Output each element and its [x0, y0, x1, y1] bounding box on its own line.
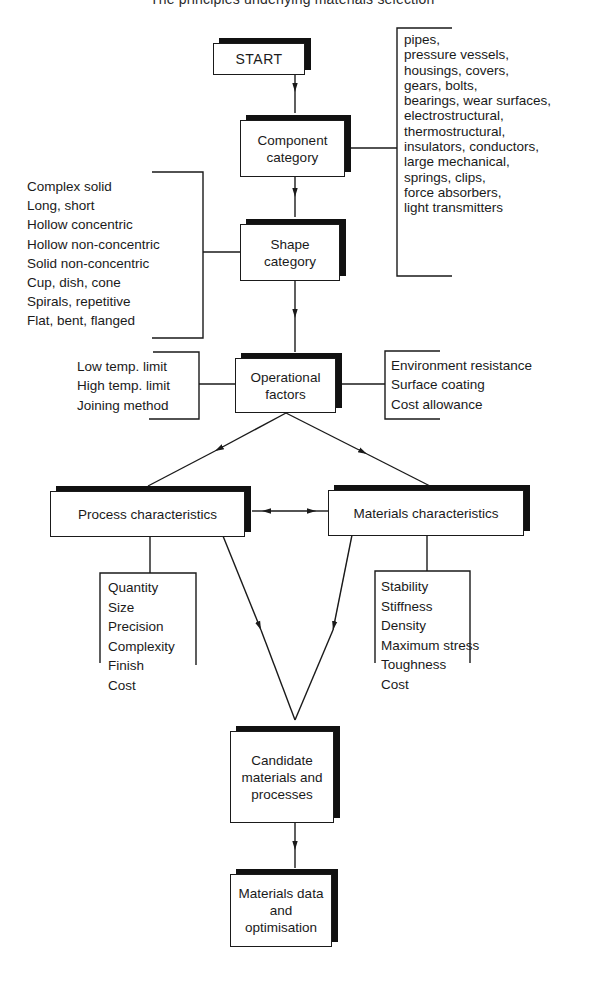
- list-item: Complex solid: [27, 177, 160, 196]
- list-item: Precision: [108, 617, 175, 637]
- list-item: electrostructural,: [404, 108, 551, 123]
- list-item: large mechanical,: [404, 154, 551, 169]
- list-item: Surface coating: [391, 375, 532, 394]
- node-shape-category: Shape category: [240, 224, 340, 281]
- list-item: Maximum stress: [381, 636, 479, 656]
- list-item: Cost: [381, 675, 479, 695]
- list-item: Complexity: [108, 637, 175, 657]
- node-materials-data: Materials data and optimisation: [230, 874, 332, 947]
- list-shape-examples: Complex solid Long, short Hollow concent…: [27, 177, 160, 331]
- list-item: Low temp. limit: [77, 357, 170, 376]
- list-item: Environment resistance: [391, 356, 532, 375]
- edge-operational-materials: [286, 413, 367, 454]
- list-item: Stability: [381, 577, 479, 597]
- list-item: Long, short: [27, 196, 160, 215]
- list-item: Solid non-concentric: [27, 254, 160, 273]
- list-item: Cup, dish, cone: [27, 273, 160, 292]
- list-item: thermostructural,: [404, 124, 551, 139]
- node-candidate: Candidate materials and processes: [230, 731, 334, 823]
- node-materials-characteristics: Materials characteristics: [328, 490, 524, 536]
- list-item: force absorbers,: [404, 185, 551, 200]
- list-item: Finish: [108, 656, 175, 676]
- list-item: Spirals, repetitive: [27, 292, 160, 311]
- list-item: Density: [381, 616, 479, 636]
- list-process-factors: Quantity Size Precision Complexity Finis…: [108, 578, 175, 695]
- list-item: springs, clips,: [404, 170, 551, 185]
- list-item: housings, covers,: [404, 63, 551, 78]
- list-item: pressure vessels,: [404, 47, 551, 62]
- list-material-factors: Stability Stiffness Density Maximum stre…: [381, 577, 479, 694]
- list-operational-left: Low temp. limit High temp. limit Joining…: [77, 357, 170, 415]
- node-component-category: Component category: [240, 120, 345, 177]
- list-item: Cost allowance: [391, 395, 532, 414]
- list-item: insulators, conductors,: [404, 139, 551, 154]
- list-item: Quantity: [108, 578, 175, 598]
- edge-process-candidate: [223, 536, 261, 630]
- node-operational-factors: Operational factors: [235, 358, 336, 413]
- node-start: START: [213, 43, 305, 75]
- list-item: Flat, bent, flanged: [27, 311, 160, 330]
- list-operational-right: Environment resistance Surface coating C…: [391, 356, 532, 414]
- list-item: Joining method: [77, 396, 170, 415]
- list-item: Stiffness: [381, 597, 479, 617]
- list-item: bearings, wear surfaces,: [404, 93, 551, 108]
- list-item: Hollow non-concentric: [27, 235, 160, 254]
- list-item: Hollow concentric: [27, 215, 160, 234]
- list-item: Size: [108, 598, 175, 618]
- list-item: High temp. limit: [77, 376, 170, 395]
- list-item: pipes,: [404, 32, 551, 47]
- list-item: light transmitters: [404, 200, 551, 215]
- list-item: Cost: [108, 676, 175, 696]
- edge-operational-process: [215, 413, 286, 451]
- list-item: Toughness: [381, 655, 479, 675]
- list-component-examples: pipes, pressure vessels, housings, cover…: [404, 32, 551, 216]
- list-item: gears, bolts,: [404, 78, 551, 93]
- node-process-characteristics: Process characteristics: [50, 491, 245, 537]
- edge-materials-candidate: [333, 535, 352, 630]
